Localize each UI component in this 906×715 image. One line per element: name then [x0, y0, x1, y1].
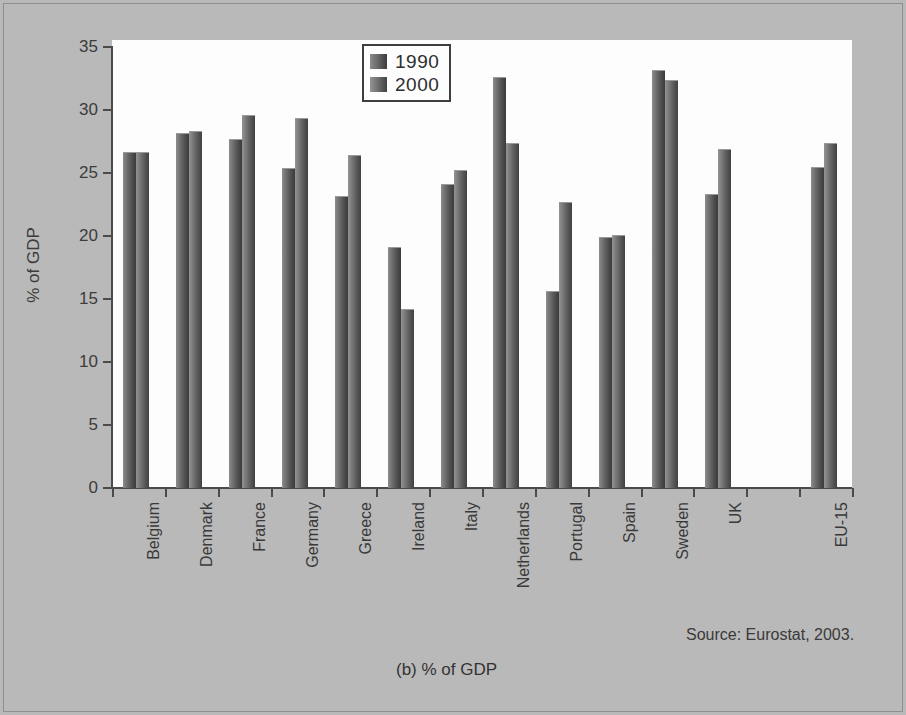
y-axis-tick-label: 10 — [56, 352, 98, 372]
x-axis-tick — [482, 488, 484, 497]
x-axis-tick — [218, 488, 220, 497]
y-axis-tick-label: 20 — [56, 226, 98, 246]
bar — [652, 70, 665, 488]
y-axis-tick — [103, 424, 112, 426]
bar — [388, 247, 401, 488]
x-axis-category-label: Ireland — [410, 502, 428, 551]
bar — [401, 309, 414, 488]
bar — [705, 194, 718, 488]
x-axis-tick — [323, 488, 325, 497]
y-axis-tick-label: 25 — [56, 163, 98, 183]
x-axis-tick — [376, 488, 378, 497]
bar — [335, 196, 348, 488]
figure-container: % of GDP 05101520253035 BelgiumDenmarkFr… — [0, 0, 906, 715]
bar — [824, 143, 837, 488]
bar — [229, 139, 242, 488]
bar — [559, 202, 572, 488]
x-axis-tick — [165, 488, 167, 497]
x-axis-tick — [429, 488, 431, 497]
bar — [348, 155, 361, 488]
x-axis-tick — [641, 488, 643, 497]
bar — [123, 152, 136, 488]
x-axis-tick — [271, 488, 273, 497]
y-axis-tick-label: 5 — [56, 415, 98, 435]
legend-label-1990: 1990 — [395, 51, 439, 73]
x-axis-tick — [535, 488, 537, 497]
bar — [612, 235, 625, 488]
y-axis-tick-label: 30 — [56, 100, 98, 120]
x-axis-tick — [588, 488, 590, 497]
bar — [295, 118, 308, 488]
bar — [599, 237, 612, 488]
bar — [493, 77, 506, 488]
bar — [242, 115, 255, 488]
bar — [811, 167, 824, 488]
bar — [454, 170, 467, 488]
x-axis-tick — [693, 488, 695, 497]
y-axis-tick-label: 35 — [56, 37, 98, 57]
bar — [189, 131, 202, 488]
bar — [282, 168, 295, 488]
x-axis-tick — [852, 488, 854, 497]
y-axis-tick-label: 15 — [56, 289, 98, 309]
y-axis-tick — [103, 235, 112, 237]
x-axis-category-label: Sweden — [674, 502, 692, 560]
x-axis-tick — [112, 488, 114, 497]
plot-area — [112, 40, 852, 489]
x-axis-category-label: Germany — [304, 502, 322, 568]
x-axis-category-label: UK — [727, 502, 745, 524]
bar — [441, 184, 454, 488]
legend-swatch-1990-icon — [370, 54, 387, 69]
y-axis-tick — [103, 487, 112, 489]
x-axis-category-label: Netherlands — [515, 502, 533, 588]
y-axis-tick — [103, 172, 112, 174]
x-axis-category-label: France — [251, 502, 269, 552]
x-axis-category-label: Portugal — [568, 502, 586, 562]
x-axis-category-label: Greece — [357, 502, 375, 554]
x-axis-category-label: Belgium — [145, 502, 163, 560]
bar — [506, 143, 519, 488]
x-axis-category-label: Denmark — [198, 502, 216, 567]
bar — [546, 291, 559, 488]
bar — [718, 149, 731, 488]
legend-swatch-2000-icon — [370, 77, 387, 92]
bar — [176, 133, 189, 488]
legend-label-2000: 2000 — [395, 74, 439, 96]
y-axis-tick — [103, 361, 112, 363]
x-axis-tick — [799, 488, 801, 497]
bar — [665, 80, 678, 488]
legend-entry-2000: 2000 — [370, 73, 439, 96]
y-axis-title: % of GDP — [24, 195, 44, 335]
y-axis-tick — [103, 298, 112, 300]
legend-entry-1990: 1990 — [370, 50, 439, 73]
figure-caption: (b) % of GDP — [396, 660, 497, 680]
bar — [136, 152, 149, 488]
y-axis-line — [111, 46, 113, 489]
x-axis-category-label: Spain — [621, 502, 639, 543]
y-axis-tick — [103, 46, 112, 48]
x-axis-category-label: EU-15 — [833, 502, 851, 547]
chart-legend: 1990 2000 — [362, 44, 451, 102]
y-axis-tick — [103, 109, 112, 111]
x-axis-tick — [746, 488, 748, 497]
y-axis-tick-label: 0 — [56, 478, 98, 498]
x-axis-category-label: Italy — [463, 502, 481, 531]
source-note: Source: Eurostat, 2003. — [686, 626, 854, 644]
